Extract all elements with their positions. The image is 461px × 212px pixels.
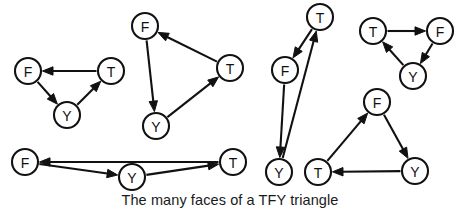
triangle-5-edges <box>383 27 433 65</box>
edge-Y6-to-T6 <box>341 171 401 172</box>
arrowhead-T5-to-F5 <box>415 27 426 35</box>
node-triangle-1-y-label: Y <box>62 108 72 124</box>
triangle-2-edges <box>147 32 219 117</box>
edge-F4-to-Y4 <box>280 84 284 149</box>
node-triangle-1-f-label: F <box>24 64 33 80</box>
triangle-1-edges <box>38 67 101 105</box>
arrowhead-T4-to-F4 <box>293 47 302 58</box>
edge-Y1-to-T1 <box>77 87 94 104</box>
triangle-diagram-canvas: FTYFTYFTYTFYTFYFYT The many faces of a T… <box>0 0 461 212</box>
figure-caption: The many faces of a TFY triangle <box>121 192 338 208</box>
triangle-2-nodes: FTY <box>132 13 243 139</box>
triangle-5-nodes: TFY <box>360 18 453 89</box>
node-triangle-3-y-label: Y <box>127 170 137 186</box>
edge-F1-to-Y1 <box>38 82 52 98</box>
arrowhead-F2-to-Y2 <box>149 101 157 112</box>
tfy-triangle-figure: FTYFTYFTYTFYTFYFYT The many faces of a T… <box>0 0 461 212</box>
node-triangle-6-f-label: F <box>373 95 382 111</box>
arrowhead-Y6-to-T6 <box>333 168 344 176</box>
node-triangle-2-y-label: Y <box>151 119 161 135</box>
node-triangle-4-y-label: Y <box>274 165 284 181</box>
arrowhead-T2-to-F2 <box>158 32 169 40</box>
edge-Y2-to-T2 <box>167 82 211 117</box>
edge-Y5-to-T5 <box>388 48 403 65</box>
triangle-6-edges <box>327 113 408 176</box>
edge-F3-to-Y3 <box>39 164 109 174</box>
node-triangle-2-f-label: F <box>141 19 150 35</box>
node-triangle-6-y-label: Y <box>410 164 420 180</box>
node-triangle-3-t-label: T <box>229 155 238 171</box>
node-triangle-6-t-label: T <box>314 165 323 181</box>
triangle-4-edges <box>276 29 317 158</box>
node-triangle-4-f-label: F <box>281 63 290 79</box>
triangle-3-nodes: FTY <box>12 149 246 190</box>
edge-T2-to-F2 <box>166 36 217 61</box>
arrowhead-F3-to-Y3 <box>107 169 118 177</box>
arrowhead-F5-to-Y5 <box>420 52 429 63</box>
edge-Y3-to-T3 <box>146 165 210 174</box>
edge-T6-to-F6 <box>327 120 362 161</box>
node-triangle-5-f-label: F <box>436 24 445 40</box>
node-triangle-5-y-label: Y <box>408 69 418 85</box>
edge-F6-to-Y6 <box>384 115 404 151</box>
node-triangle-3-f-label: F <box>21 155 30 171</box>
node-triangle-1-t-label: T <box>107 64 116 80</box>
node-triangle-5-t-label: T <box>369 24 378 40</box>
node-triangle-2-t-label: T <box>226 61 235 77</box>
arrowhead-F6-to-Y6 <box>399 147 408 158</box>
node-triangle-4-t-label: T <box>316 10 325 26</box>
arrowhead-T1-to-F1 <box>43 67 54 75</box>
triangle-1-nodes: FTY <box>15 58 124 128</box>
edge-F2-to-Y2 <box>147 40 154 103</box>
